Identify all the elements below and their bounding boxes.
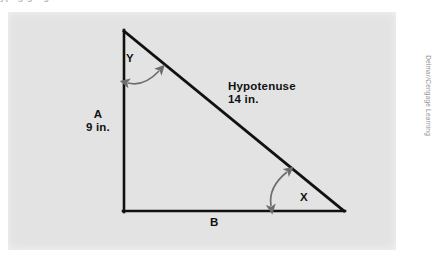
- angle-x-arrow-icon: [271, 172, 287, 206]
- angle-x-label: X: [300, 191, 308, 204]
- angle-y-label: Y: [126, 52, 134, 65]
- side-b-label: B: [210, 216, 219, 229]
- hypotenuse-length: 14 in.: [228, 93, 296, 106]
- hypotenuse-line: [124, 31, 344, 211]
- side-a-name: A: [81, 108, 115, 121]
- angle-y-arrow-icon: [128, 71, 159, 84]
- credit-text: Delmar/Cengage Learning: [425, 55, 432, 136]
- side-a-length: 9 in.: [81, 121, 115, 134]
- side-a-label: A 9 in.: [81, 108, 115, 134]
- hypotenuse-name: Hypotenuse: [228, 80, 296, 93]
- hypotenuse-label: Hypotenuse 14 in.: [228, 80, 296, 106]
